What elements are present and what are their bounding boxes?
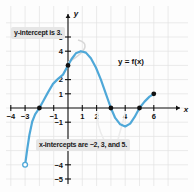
axes: [10, 14, 180, 184]
svg-text:−4: −4: [7, 112, 16, 121]
svg-text:−4: −4: [54, 161, 63, 170]
svg-text:−5: −5: [54, 175, 63, 184]
figure-container: −4−3−112465421−1−4−5 xy y-intercept is 3…: [0, 0, 194, 192]
svg-text:1: 1: [59, 90, 63, 99]
svg-text:y: y: [73, 9, 79, 18]
svg-text:−1: −1: [54, 118, 63, 127]
callout-x-intercepts: x-intercepts are −2, 3, and 5.: [36, 139, 130, 151]
svg-text:−3: −3: [21, 112, 30, 121]
svg-text:x: x: [183, 105, 189, 114]
svg-text:1: 1: [80, 112, 84, 121]
svg-text:6: 6: [152, 112, 156, 121]
function-label: y = f(x): [118, 57, 144, 66]
callout-y-intercept: y-intercept is 3.: [11, 27, 65, 39]
